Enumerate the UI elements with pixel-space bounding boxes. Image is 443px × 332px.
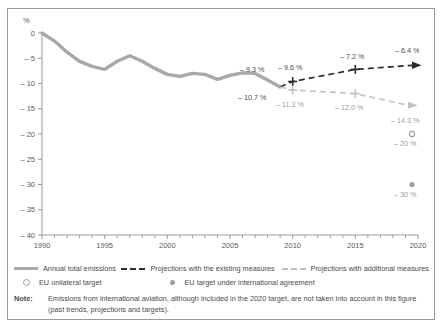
chart-plot-area: 0 – 5 – 10 – 15 – 20 – 25 – 30 – 35 – 40… — [0, 0, 443, 260]
annotation-minus-9-6: – 9.6 % — [278, 63, 303, 72]
y-tick-label-minus20: – 20 — [20, 130, 35, 139]
y-tick-label-minus25: – 25 — [20, 155, 35, 164]
y-axis-unit-label: % — [23, 16, 30, 25]
legend-item-projections-additional: Projections with additional measures — [282, 264, 429, 273]
dashed-light-line-icon — [282, 268, 306, 270]
x-tick-label-1995: 1995 — [96, 241, 113, 250]
note-text: Emissions from international aviation, a… — [48, 294, 424, 315]
figure-note: Note: Emissions from international aviat… — [14, 294, 424, 315]
projection-existing-arrow-icon — [412, 62, 422, 69]
chart-svg: 0 – 5 – 10 – 15 – 20 – 25 – 30 – 35 – 40… — [0, 0, 443, 260]
solid-line-icon — [14, 267, 38, 270]
y-tick-label-minus15: – 15 — [20, 104, 35, 113]
annotation-minus-6-4: – 6.4 % — [395, 46, 420, 55]
annotation-minus-12-0: – 12.0 % — [335, 103, 364, 112]
x-tick-label-2020: 2020 — [410, 241, 427, 250]
circle-open-icon — [23, 279, 30, 286]
annotation-minus-7-2: – 7.2 % — [340, 52, 365, 61]
x-tick-label-2010: 2010 — [284, 241, 301, 250]
annotation-minus-14-3: – 14.3 % — [391, 116, 420, 125]
marker-eu-unilateral-target — [409, 131, 414, 136]
y-tick-label-minus5: – 5 — [25, 54, 35, 63]
annotation-minus-11-3: – 11.3 % — [276, 100, 304, 109]
circle-filled-icon — [170, 280, 175, 285]
annotation-minus-20: – 20 % — [394, 139, 417, 148]
x-tick-label-2000: 2000 — [159, 241, 176, 250]
dashed-dark-line-icon — [121, 268, 145, 270]
y-tick-label-minus35: – 35 — [20, 205, 35, 214]
note-label: Note: — [14, 294, 48, 303]
legend-item-projections-existing: Projections with the existing measures — [121, 264, 274, 273]
legend-item-annual-total-emissions: Annual total emissions — [14, 264, 116, 273]
marker-eu-international-target — [409, 182, 414, 187]
legend-item-eu-international-target: EU target under international agreement — [161, 278, 314, 287]
series-annual-total-emissions — [42, 33, 280, 87]
legend-label-eu-unilateral-target: EU unilateral target — [39, 278, 101, 287]
legend-label-eu-international-target: EU target under international agreement — [184, 278, 314, 287]
y-axis-ticks — [38, 33, 42, 235]
legend-row-markers: EU unilateral target EU target under int… — [14, 275, 429, 290]
legend-item-eu-unilateral-target: EU unilateral target — [14, 278, 101, 287]
x-tick-label-2015: 2015 — [347, 241, 364, 250]
legend-label-projections-additional: Projections with additional measures — [311, 264, 429, 273]
legend-label-projections-existing: Projections with the existing measures — [150, 264, 274, 273]
legend-row-lines: Annual total emissions Projections with … — [14, 262, 429, 275]
x-tick-label-2005: 2005 — [222, 241, 239, 250]
legend-label-annual-total-emissions: Annual total emissions — [43, 264, 116, 273]
y-tick-label-minus40: – 40 — [20, 231, 35, 240]
projection-additional-arrow-icon — [408, 102, 418, 109]
x-axis-minor-ticks — [42, 235, 418, 239]
figure-container: 0 – 5 – 10 – 15 – 20 – 25 – 30 – 35 – 40… — [0, 0, 443, 332]
y-tick-label-minus30: – 30 — [20, 180, 35, 189]
y-tick-label-minus10: – 10 — [20, 79, 35, 88]
annotation-minus-30: – 30 % — [394, 190, 417, 199]
annotation-minus-10-7: – 10.7 % — [238, 93, 267, 102]
y-tick-label-0: 0 — [31, 29, 35, 38]
annotation-minus-9-3: – 9.3 % — [240, 65, 265, 74]
x-tick-label-1990: 1990 — [34, 241, 51, 250]
chart-legend: Annual total emissions Projections with … — [14, 262, 429, 290]
